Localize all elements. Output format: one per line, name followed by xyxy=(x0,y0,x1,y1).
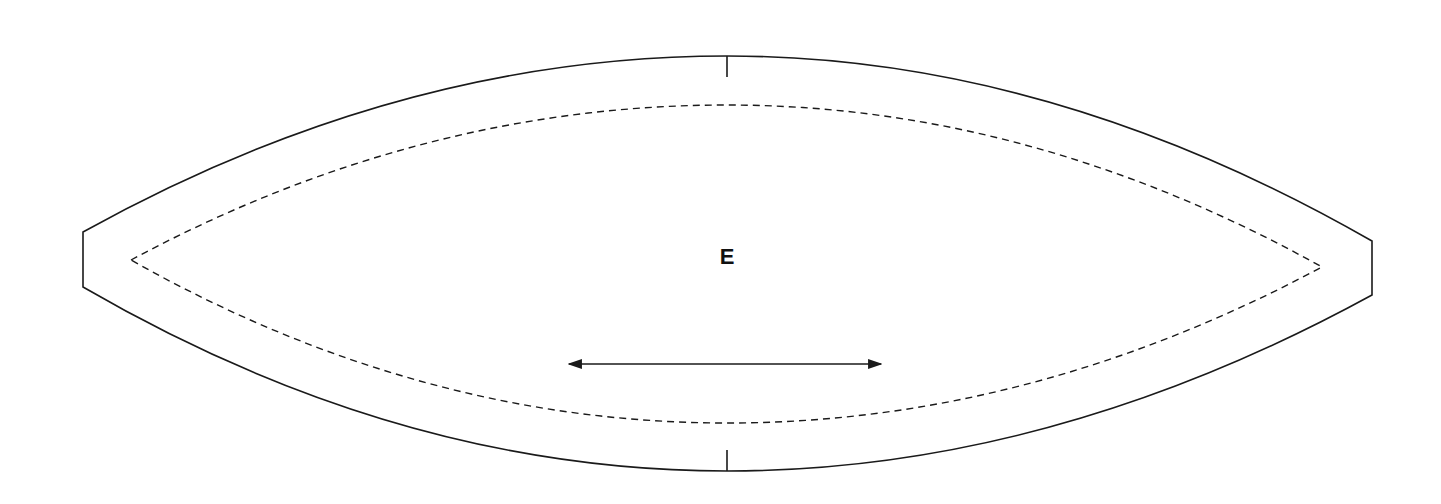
piece-label: E xyxy=(720,244,735,270)
